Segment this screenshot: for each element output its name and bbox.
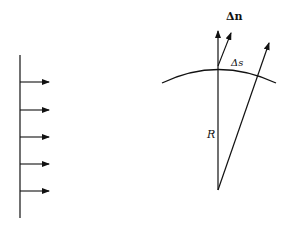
- radius-label: R: [206, 128, 215, 141]
- normal-arrow-tilted: [218, 33, 231, 66]
- diagram-canvas: Δn Δs R: [0, 0, 297, 227]
- curved-wavefront: Δn Δs R: [162, 10, 276, 190]
- radius-line-slanted: [218, 43, 269, 190]
- delta-n-label: Δn: [226, 10, 243, 23]
- plane-wavefront: [20, 55, 49, 218]
- delta-s-label: Δs: [230, 57, 243, 68]
